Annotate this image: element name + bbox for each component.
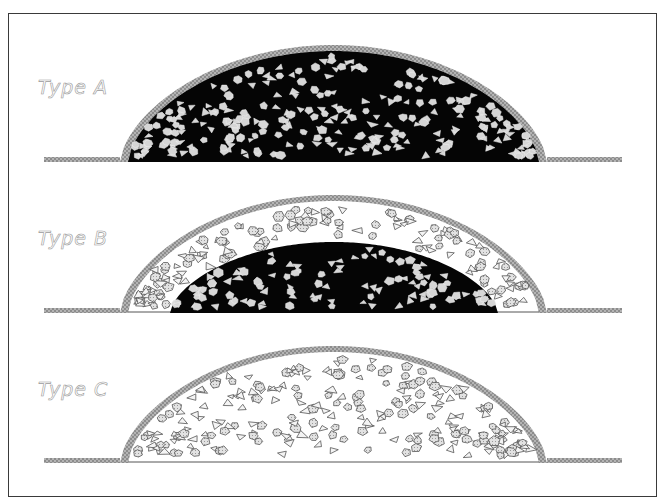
aggregate-particle [518,439,527,446]
panel-type-a [44,45,622,162]
aggregate-particle [363,108,370,114]
aggregate-particle [431,225,440,233]
aggregate-particle [459,427,468,435]
aggregate-particle [369,233,377,240]
panel-type-c [44,346,622,463]
ground-left [44,308,120,313]
aggregate-particle [484,402,493,410]
aggregate-particle [227,134,235,142]
aggregate-particle [291,270,300,276]
panel-type-b [44,195,622,313]
ground-left [44,157,120,162]
ground-right [547,458,622,463]
aggregate-particle [257,67,264,74]
aggregate-particle [489,423,496,429]
aggregate-particle [134,450,143,457]
aggregate-particle [395,401,403,408]
ground-right [547,308,622,313]
aggregate-particle [383,366,392,374]
ground-right [547,157,622,162]
label-type-c: Type C [38,378,108,400]
ground-left [44,458,120,463]
label-type-b: Type B [38,227,108,249]
label-type-a: Type A [38,76,108,98]
